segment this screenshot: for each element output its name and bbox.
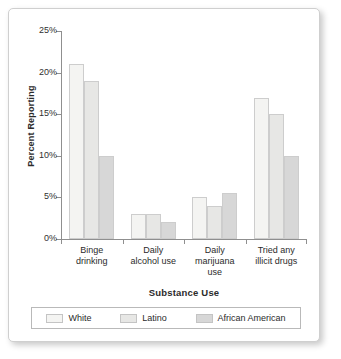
legend-label: Latino (142, 313, 167, 323)
x-axis-category-label: Dailyalcohol use (123, 245, 185, 267)
x-axis-title: Substance Use (61, 287, 307, 298)
x-axis-category-label: Dailymarijuanause (184, 245, 246, 278)
bar (284, 156, 299, 239)
bar (192, 197, 207, 239)
bar (207, 206, 222, 239)
bar (269, 114, 284, 239)
bar (146, 214, 161, 239)
bar-group (61, 31, 123, 239)
legend-entry: Latino (120, 313, 167, 323)
legend-swatch (196, 314, 213, 323)
x-axis-category-label-line: Binge (61, 245, 123, 256)
x-axis-category-label-line: use (184, 267, 246, 278)
x-axis-category-label: Bingedrinking (61, 245, 123, 267)
legend-label: African American (218, 313, 286, 323)
bar (161, 222, 176, 239)
x-axis-category-label-line: Daily (184, 245, 246, 256)
figure-card: Percent Reporting 0%5%10%15%20%25% Binge… (8, 8, 320, 342)
bar-group (123, 31, 185, 239)
x-axis-category-label: Tried anyillicit drugs (246, 245, 308, 267)
legend-swatch (46, 314, 63, 323)
bar (131, 214, 146, 239)
x-axis-tick-mark (61, 239, 62, 244)
bar (84, 81, 99, 239)
x-axis-tick-mark (246, 239, 247, 244)
legend-swatch (120, 314, 137, 323)
bar-group (184, 31, 246, 239)
plot-area: 0%5%10%15%20%25% BingedrinkingDailyalcoh… (61, 31, 307, 239)
bar-chart: Percent Reporting 0%5%10%15%20%25% Binge… (9, 9, 320, 342)
chart-legend: WhiteLatinoAfrican American (31, 307, 301, 329)
legend-label: White (68, 313, 91, 323)
x-axis-tick-mark (184, 239, 185, 244)
y-axis-title: Percent Reporting (26, 66, 36, 186)
x-axis-category-label-line: alcohol use (123, 256, 185, 267)
legend-entry: White (46, 313, 91, 323)
y-axis-tick-label: 5% (44, 191, 57, 201)
x-axis-category-label-line: Tried any (246, 245, 308, 256)
y-axis-tick-label: 10% (39, 150, 57, 160)
y-axis-tick-label: 20% (39, 67, 57, 77)
y-axis-tick-label: 25% (39, 25, 57, 35)
x-axis-category-label-line: illicit drugs (246, 256, 308, 267)
bar (222, 193, 237, 239)
legend-entry: African American (196, 313, 286, 323)
bar-group (246, 31, 308, 239)
x-axis-tick-mark (123, 239, 124, 244)
y-axis-tick-label: 15% (39, 108, 57, 118)
bar (69, 64, 84, 239)
x-axis-category-label-line: marijuana (184, 256, 246, 267)
y-axis-tick-label: 0% (44, 233, 57, 243)
x-axis-tick-mark (306, 239, 307, 244)
x-axis-category-label-line: Daily (123, 245, 185, 256)
x-axis-category-label-line: drinking (61, 256, 123, 267)
bar (99, 156, 114, 239)
bar (254, 98, 269, 239)
